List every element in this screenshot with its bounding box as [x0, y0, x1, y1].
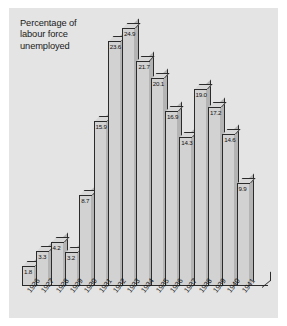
bar-side-face [249, 173, 254, 285]
bar-1936: 16.9 [165, 111, 178, 285]
bar-value-label: 19.0 [196, 91, 207, 98]
bar-value-label: 16.9 [167, 113, 178, 120]
bar-value-label: 4.2 [53, 244, 61, 251]
bar-value-label: 3.2 [67, 254, 75, 261]
unemployment-bar-chart: Percentage of labour force unemployed 1.… [9, 8, 278, 318]
bar-value-label: 3.3 [38, 253, 46, 260]
bar-front-top-edge [51, 242, 64, 243]
bar-front-top-edge [94, 121, 107, 122]
bar-front-top-edge [108, 41, 121, 42]
bar-front-top-edge [165, 111, 178, 112]
plot-area: 1.83.34.23.28.715.923.624.921.720.116.91… [22, 20, 267, 285]
bar-1940: 14.6 [222, 134, 235, 285]
bar-value-label: 21.7 [138, 63, 149, 70]
bar-value-label: 17.2 [210, 109, 221, 116]
bar-front-top-edge [208, 107, 221, 108]
bar-front-top-edge [36, 251, 49, 252]
bar-value-label: 1.8 [24, 268, 32, 275]
bar-value-label: 15.9 [96, 123, 107, 130]
bar-1934: 21.7 [136, 61, 149, 285]
bar-front-top-edge [194, 89, 207, 90]
bar-value-label: 23.6 [110, 43, 121, 50]
bar-value-label: 14.6 [224, 136, 235, 143]
bar-front-top-edge [136, 61, 149, 62]
bar-1932: 23.6 [108, 41, 121, 285]
bar-1938: 19.0 [194, 89, 207, 285]
bar-front-top-edge [65, 252, 78, 253]
bar-1930: 8.7 [79, 195, 92, 285]
bar-front-top-edge [22, 266, 35, 267]
bar-front-top-edge [122, 28, 135, 29]
bar-value-label: 24.9 [124, 30, 135, 37]
bar-1941: 9.9 [237, 183, 250, 285]
bar-1935: 20.1 [151, 78, 164, 285]
bar-value-label: 14.3 [181, 139, 192, 146]
bar-1939: 17.2 [208, 107, 221, 285]
bar-value-label: 20.1 [153, 80, 164, 87]
bar-1933: 24.9 [122, 28, 135, 285]
bar-value-label: 8.7 [81, 197, 89, 204]
bar-front-top-edge [222, 134, 235, 135]
bar-front-top-edge [151, 78, 164, 79]
bar-value-label: 9.9 [239, 185, 247, 192]
bar-front-top-edge [79, 195, 92, 196]
bar-front-top-edge [179, 137, 192, 138]
bar-1937: 14.3 [179, 137, 192, 285]
bar-front-top-edge [237, 183, 250, 184]
bar-1931: 15.9 [94, 121, 107, 285]
